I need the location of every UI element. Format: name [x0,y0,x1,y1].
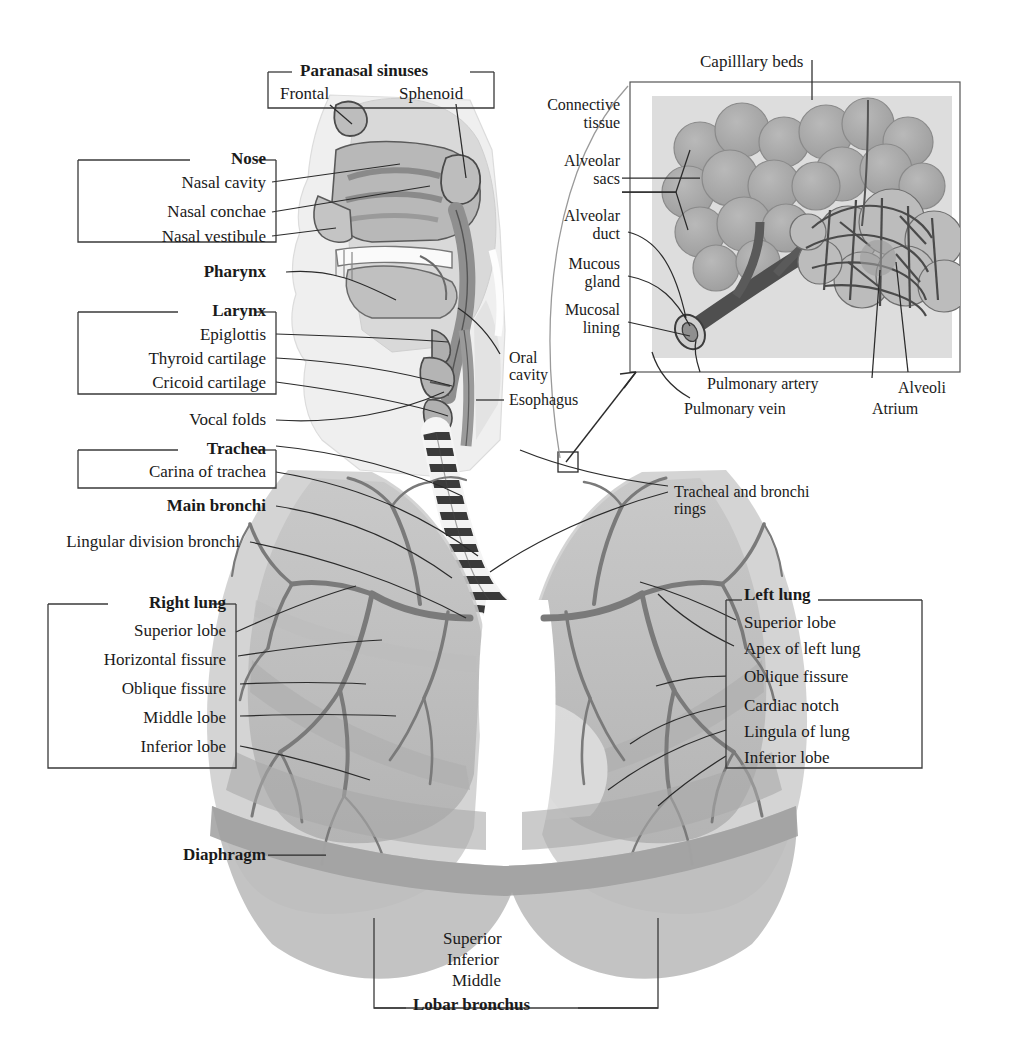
label-alveoli: Alveoli [898,379,946,397]
label-mucous-gland-line1: Mucous [520,255,620,273]
label-horizontal-fissure: Horizontal fissure [36,650,226,669]
alveoli-inset-illustration [630,82,970,372]
label-mucous-gland-line2: gland [520,273,620,291]
label-pulmonary-artery: Pulmonary artery [707,375,819,393]
label-tracheal-rings-line2: rings [674,500,706,518]
label-nasal-cavity: Nasal cavity [86,173,266,192]
label-esophagus: Esophagus [509,391,578,409]
label-epiglottis: Epiglottis [76,325,266,344]
label-atrium: Atrium [872,400,918,418]
label-oral-cavity-line1: Oral [509,349,537,367]
label-mucosal-lining-line1: Mucosal [520,301,620,319]
label-alveolar-duct-line1: Alveolar [520,207,620,225]
head-sagittal-illustration [292,95,505,476]
label-diaphragm: Diaphragm [106,845,266,864]
label-right-inferior-lobe: Inferior lobe [36,737,226,756]
label-lingular-division-bronchi: Lingular division bronchi [30,532,240,551]
label-capillary-beds: Capilllary beds [700,52,803,71]
label-left-oblique-fissure: Oblique fissure [744,667,848,686]
label-lobar-middle: Middle [452,971,501,990]
label-sphenoid-sinus: Sphenoid [399,84,463,103]
group-title-right-lung: Right lung [66,593,226,612]
label-nasal-conchae: Nasal conchae [86,202,266,221]
label-connective-tissue-line1: Connective [520,96,620,114]
label-alveolar-sacs-line2: sacs [520,170,620,188]
label-lobar-inferior: Inferior [447,950,499,969]
label-lobar-superior: Superior [443,929,502,948]
label-frontal-sinus: Frontal [280,84,329,103]
label-middle-lobe: Middle lobe [36,708,226,727]
label-alveolar-duct-line2: duct [520,225,620,243]
group-title-lobar-bronchus: Lobar bronchus [413,995,530,1014]
label-nasal-vestibule: Nasal vestibule [86,227,266,246]
label-lingula-of-lung: Lingula of lung [744,722,850,741]
group-title-left-lung: Left lung [744,585,811,604]
label-left-inferior-lobe: Inferior lobe [744,748,829,767]
label-left-superior-lobe: Superior lobe [744,613,836,632]
lungs-illustration [207,470,807,979]
label-vocal-folds: Vocal folds [76,410,266,429]
group-title-larynx: Larynx [106,301,266,320]
label-right-superior-lobe: Superior lobe [46,621,226,640]
label-right-oblique-fissure: Oblique fissure [36,679,226,698]
group-title-nose: Nose [106,149,266,168]
label-mucosal-lining-line2: lining [520,319,620,337]
label-oral-cavity-line2: cavity [509,366,548,384]
label-cricoid-cartilage: Cricoid cartilage [76,373,266,392]
label-connective-tissue-line2: tissue [520,114,620,132]
label-apex-of-left-lung: Apex of left lung [744,639,861,658]
respiratory-system-figure: Paranasal sinuses Frontal Sphenoid Nose … [0,0,1011,1052]
label-carina-of-trachea: Carina of trachea [76,462,266,481]
label-pulmonary-vein: Pulmonary vein [684,400,786,418]
label-alveolar-sacs-line1: Alveolar [520,152,620,170]
label-main-bronchi: Main bronchi [76,496,266,515]
label-pharynx: Pharynx [106,262,266,281]
group-title-trachea: Trachea [106,439,266,458]
group-title-paranasal-sinuses: Paranasal sinuses [300,61,428,80]
label-cardiac-notch: Cardiac notch [744,696,839,715]
label-tracheal-rings-line1: Tracheal and bronchi [674,483,809,501]
label-thyroid-cartilage: Thyroid cartilage [76,349,266,368]
